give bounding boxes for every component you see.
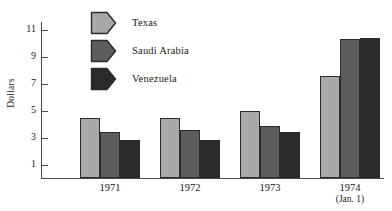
bar-texas-1972 [160,118,180,179]
legend-label: Venezuela [132,73,177,84]
bar-saudi-arabia-1971 [100,132,120,178]
legend-item-saudi-arabia: Saudi Arabia [90,39,240,65]
legend-swatch-icon [90,39,117,63]
bar-group [240,22,300,178]
bar-saudi-arabia-1972 [180,130,200,178]
bar-texas-1973 [240,111,260,178]
bar-venezuela-1971 [120,140,140,178]
y-tick-label: 7 [0,77,36,88]
y-tick-label: 9 [0,50,36,61]
legend-label: Texas [132,17,157,28]
y-tick-label: 5 [0,104,36,115]
bar-texas-1974 [320,76,340,178]
legend-item-venezuela: Venezuela [90,67,240,93]
bar-saudi-arabia-1974 [340,39,360,178]
bar-chart: Dollars 1357911 1971197219731974(Jan. 1)… [0,0,392,211]
y-tick-label: 1 [0,158,36,169]
chart-legend: TexasSaudi ArabiaVenezuela [90,11,240,95]
bar-venezuela-1973 [280,132,300,178]
bar-group [320,22,380,178]
legend-swatch-icon [90,67,117,91]
x-axis-sublabel: (Jan. 1) [290,194,392,204]
y-tick-label: 11 [0,23,36,34]
legend-item-texas: Texas [90,11,240,37]
bar-saudi-arabia-1973 [260,126,280,178]
bar-venezuela-1972 [200,140,220,178]
bar-texas-1971 [80,118,100,179]
legend-label: Saudi Arabia [132,45,189,56]
x-axis-label-1974: 1974(Jan. 1) [290,182,392,204]
y-tick-label: 3 [0,131,36,142]
bar-venezuela-1974 [360,38,380,179]
x-axis-line [41,178,384,179]
legend-swatch-icon [90,11,117,35]
